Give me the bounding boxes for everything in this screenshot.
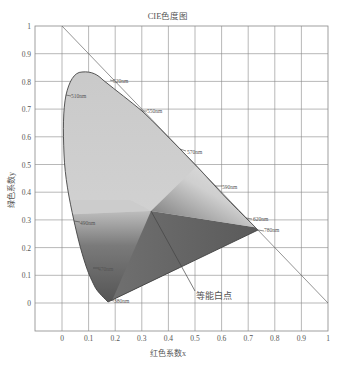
chart-title: CIE色度图 — [148, 11, 189, 21]
svg-text:0.5: 0.5 — [22, 161, 32, 170]
wl-510: 510nm — [71, 93, 87, 99]
svg-text:0.2: 0.2 — [111, 334, 121, 343]
svg-text:0.8: 0.8 — [270, 334, 280, 343]
y-axis-label: 绿色系数y — [6, 172, 16, 208]
svg-text:1: 1 — [27, 22, 31, 31]
svg-text:0.3: 0.3 — [22, 216, 32, 225]
wl-470: 470nm — [98, 266, 114, 272]
wl-550: 550nm — [147, 108, 163, 114]
svg-text:0.5: 0.5 — [190, 334, 200, 343]
y-tick-labels: 0 0.1 0.2 0.3 0.4 0.5 0.6 0.7 0.8 0.9 1 — [22, 22, 32, 308]
svg-text:0.8: 0.8 — [22, 78, 32, 87]
svg-text:0.1: 0.1 — [22, 271, 32, 280]
svg-text:0.6: 0.6 — [22, 133, 32, 142]
x-axis-label: 红色系数x — [150, 348, 186, 358]
svg-text:0.7: 0.7 — [22, 105, 32, 114]
wl-380: 380nm — [114, 298, 130, 304]
svg-text:0: 0 — [60, 334, 64, 343]
wl-780: 780nm — [264, 227, 280, 233]
white-point-label: 等能白点 — [196, 290, 232, 301]
svg-text:0.4: 0.4 — [22, 188, 32, 197]
wl-590: 590nm — [222, 184, 238, 190]
svg-text:0.6: 0.6 — [217, 334, 227, 343]
wl-620: 620nm — [253, 216, 269, 222]
svg-text:0.4: 0.4 — [164, 334, 174, 343]
svg-text:0.1: 0.1 — [84, 334, 94, 343]
wl-570: 570nm — [187, 149, 203, 155]
x-tick-labels: 0 0.1 0.2 0.3 0.4 0.5 0.6 0.7 0.8 0.9 1 — [60, 334, 330, 343]
svg-text:0.2: 0.2 — [22, 244, 32, 253]
svg-text:0.9: 0.9 — [297, 334, 307, 343]
svg-text:0.9: 0.9 — [22, 50, 32, 59]
svg-text:1: 1 — [326, 334, 330, 343]
svg-text:0.3: 0.3 — [137, 334, 147, 343]
svg-text:0: 0 — [27, 299, 31, 308]
cie-chromaticity-chart: 510nm 520nm 550nm 570nm 590nm 620nm 780n… — [0, 0, 337, 368]
wl-520: 520nm — [113, 78, 129, 84]
wl-490: 490nm — [80, 220, 96, 226]
svg-text:0.7: 0.7 — [244, 334, 254, 343]
